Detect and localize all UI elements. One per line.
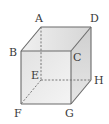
- label-F: F: [14, 107, 22, 120]
- label-D: D: [90, 12, 99, 25]
- label-H: H: [94, 74, 104, 87]
- front-face: [21, 51, 71, 104]
- label-G: G: [65, 107, 74, 120]
- label-B: B: [9, 46, 17, 59]
- label-E: E: [31, 69, 39, 82]
- label-A: A: [34, 12, 44, 25]
- cube-diagram: A D B C E H F G: [0, 0, 109, 124]
- label-C: C: [73, 51, 81, 64]
